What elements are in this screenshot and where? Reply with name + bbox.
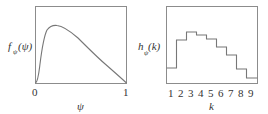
x-tick-7: 7	[228, 87, 234, 99]
x-tick-4: 4	[198, 87, 204, 99]
histogram-plot: h ψ (k) 1 2 3 4 5 6 7 8 9 k	[138, 7, 258, 113]
histogram-steps	[167, 32, 258, 78]
x-tick-8: 8	[238, 87, 244, 99]
y-axis-label-arg: (k)	[148, 40, 161, 53]
x-axis-label: k	[209, 100, 215, 112]
x-tick-0: 0	[32, 86, 38, 98]
density-curve	[36, 25, 127, 83]
x-tick-6: 6	[218, 87, 224, 99]
x-tick-3: 3	[188, 87, 194, 99]
x-tick-9: 9	[248, 87, 254, 99]
plot-frame	[36, 7, 127, 84]
x-tick-1: 1	[168, 87, 174, 99]
plot-frame	[167, 7, 258, 84]
x-tick-2: 2	[178, 87, 184, 99]
x-tick-5: 5	[208, 87, 214, 99]
x-tick-1: 1	[123, 86, 129, 98]
x-axis-label: ψ	[77, 100, 84, 112]
y-axis-label-arg: (ψ)	[18, 40, 32, 53]
figure: f ψ (ψ) 0 1 ψ h ψ (k) 1 2 3 4 5 6 7 8 9 …	[0, 0, 268, 114]
density-plot: f ψ (ψ) 0 1 ψ	[8, 7, 129, 113]
